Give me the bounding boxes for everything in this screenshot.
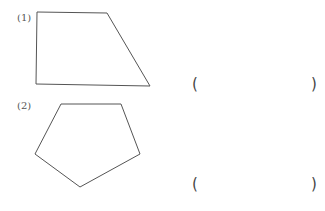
problem-2-label: (2) — [17, 100, 31, 111]
trapezoid-figure — [36, 12, 150, 86]
answer-1-open-paren: ( — [192, 75, 198, 93]
answer-2-open-paren: ( — [192, 175, 198, 193]
answer-2-blank[interactable] — [203, 176, 307, 194]
pentagon-figure — [35, 104, 140, 187]
answer-1-close-paren: ) — [311, 75, 317, 93]
problem-1-label: (1) — [17, 12, 31, 23]
answer-2-close-paren: ) — [311, 175, 317, 193]
answer-1-blank[interactable] — [203, 76, 307, 94]
